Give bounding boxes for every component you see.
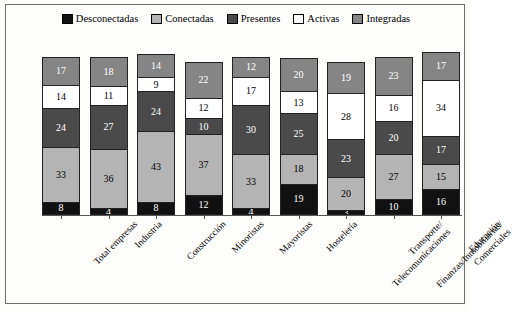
bar-segment: 16	[422, 189, 460, 215]
bar-segment: 28	[327, 93, 365, 139]
bar-segment: 14	[42, 85, 80, 108]
legend-item-desconectadas[interactable]: Desconectadas	[62, 13, 138, 25]
x-axis-line	[42, 215, 462, 216]
legend-item-activas[interactable]: Activas	[293, 13, 339, 25]
bar-column[interactable]: 2013251819	[280, 58, 318, 215]
bar-segment: 15	[422, 164, 460, 189]
x-axis-tick-label: Mayoristas	[277, 219, 314, 256]
x-axis-tick-label-line1: Mayoristas	[277, 219, 314, 256]
legend-swatch-icon	[62, 14, 73, 24]
bar-segment: 17	[232, 77, 270, 105]
bar-segment: 37	[185, 134, 223, 195]
legend-swatch-icon	[151, 14, 162, 24]
legend-item-label: Presentes	[241, 13, 281, 25]
x-axis-tick	[394, 215, 395, 219]
bar-segment: 13	[280, 91, 318, 112]
bar-segment: 33	[232, 154, 270, 208]
bar-segment: 8	[42, 202, 80, 215]
bar-segment: 34	[422, 80, 460, 136]
bar-column[interactable]: 171424338	[42, 57, 80, 215]
bar-segment: 14	[137, 54, 175, 77]
chart-frame: DesconectadasConectadasPresentesActivasI…	[5, 4, 465, 304]
bar-segment: 20	[280, 58, 318, 91]
legend-item-label: Integradas	[366, 13, 410, 25]
bar-segment: 23	[327, 139, 365, 177]
x-axis-tick	[204, 215, 205, 219]
legend-item-conectadas[interactable]: Conectadas	[151, 13, 213, 25]
bar-group: 1714243381811273641492443822121037121217…	[42, 37, 460, 215]
bar-column[interactable]: 1734171516	[422, 52, 460, 215]
bar-segment: 18	[90, 57, 128, 87]
bar-segment: 4	[232, 208, 270, 215]
legend-item-label: Desconectadas	[76, 13, 138, 25]
bar-segment: 11	[90, 86, 128, 104]
bar-segment: 27	[375, 154, 413, 199]
bar-segment: 12	[185, 195, 223, 215]
x-axis-tick	[299, 215, 300, 219]
bar-segment: 8	[137, 202, 175, 215]
plot-area: Datos en porcentaje 17142433818112736414…	[42, 37, 460, 215]
bar-segment: 17	[422, 136, 460, 164]
bar-segment: 33	[42, 147, 80, 201]
x-axis-tick-label-line1: Minoristas	[229, 219, 265, 255]
bar-column[interactable]: 121730334	[232, 57, 270, 215]
x-axis-tick-label: Construcción	[185, 219, 228, 262]
chart-legend: DesconectadasConectadasPresentesActivasI…	[6, 13, 466, 25]
x-axis-tick	[61, 215, 62, 219]
bar-segment: 10	[185, 118, 223, 134]
bar-column[interactable]: 14924438	[137, 54, 175, 215]
legend-swatch-icon	[293, 14, 304, 24]
x-axis-tick	[156, 215, 157, 219]
bar-segment: 22	[185, 62, 223, 98]
legend-item-label: Conectadas	[165, 13, 213, 25]
x-axis-tick	[346, 215, 347, 219]
bar-segment: 10	[375, 199, 413, 215]
legend-swatch-icon	[352, 14, 363, 24]
bar-segment: 27	[90, 105, 128, 150]
x-axis-tick	[441, 215, 442, 219]
bar-segment: 19	[280, 184, 318, 215]
bar-segment: 30	[232, 105, 270, 154]
bar-column[interactable]: 2212103712	[185, 62, 223, 215]
bar-segment: 17	[42, 57, 80, 85]
legend-item-label: Activas	[307, 13, 339, 25]
bar-segment: 20	[375, 121, 413, 154]
x-axis-labels: Total empresasIndustriaConstrucciónMinor…	[42, 219, 462, 312]
bar-segment: 25	[280, 113, 318, 154]
x-axis-tick-label-line1: Hostelería	[324, 219, 359, 254]
bar-segment: 17	[422, 52, 460, 80]
legend-item-presentes[interactable]: Presentes	[227, 13, 281, 25]
bar-segment: 12	[232, 57, 270, 77]
x-axis-tick-label-line1: Construcción	[185, 219, 228, 262]
bar-segment: 12	[185, 98, 223, 118]
bar-segment: 18	[280, 154, 318, 184]
legend-swatch-icon	[227, 14, 238, 24]
bar-segment: 20	[327, 177, 365, 210]
bar-column[interactable]: 192823203	[327, 62, 365, 215]
bar-segment: 24	[42, 108, 80, 148]
x-axis-tick-label: Minoristas	[229, 219, 265, 255]
x-axis-tick-label: Hostelería	[324, 219, 359, 254]
bar-segment: 16	[375, 95, 413, 121]
bar-column[interactable]: 2316202710	[375, 57, 413, 215]
bar-segment: 43	[137, 131, 175, 202]
x-axis-tick	[109, 215, 110, 219]
bar-segment: 36	[90, 149, 128, 208]
bar-segment: 23	[375, 57, 413, 95]
bar-segment: 24	[137, 91, 175, 131]
bar-segment: 4	[90, 208, 128, 215]
x-axis-tick	[251, 215, 252, 219]
bar-column[interactable]: 181127364	[90, 57, 128, 215]
bar-segment: 9	[137, 77, 175, 92]
legend-item-integradas[interactable]: Integradas	[352, 13, 410, 25]
bar-segment: 19	[327, 62, 365, 93]
